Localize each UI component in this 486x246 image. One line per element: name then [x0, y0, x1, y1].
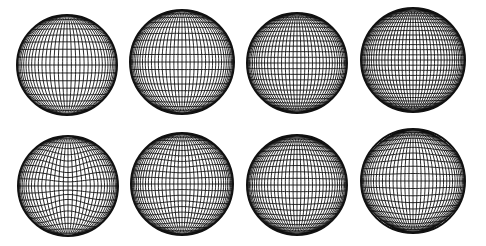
sphere-8-deformed [361, 128, 465, 234]
sphere-grid-figure [0, 0, 486, 246]
sphere-3 [247, 12, 347, 113]
sphere-7-deformed [247, 134, 347, 235]
sphere-1 [17, 15, 117, 116]
sphere-5-deformed [18, 136, 118, 236]
sphere-6-deformed [131, 133, 233, 236]
sphere-4 [361, 7, 465, 113]
sphere-2 [130, 10, 234, 115]
